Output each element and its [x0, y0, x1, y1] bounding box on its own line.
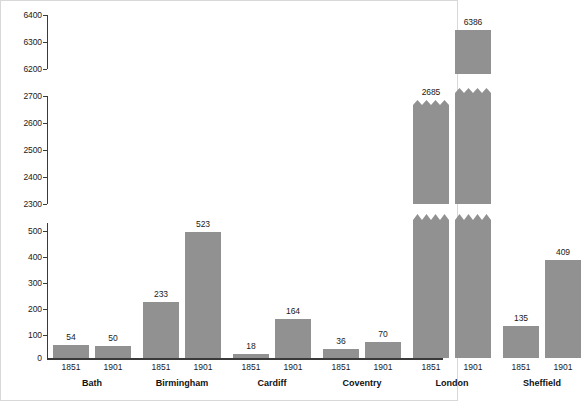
bar-label-bath-1901: 50 [95, 334, 131, 343]
y-tick-6200: 6200 [8, 65, 42, 74]
x-group-sheffield: Sheffield [497, 379, 585, 388]
y-tick-200: 200 [8, 305, 42, 314]
y-tick-2300: 2300 [8, 200, 42, 209]
bar-label-coventry-1901: 70 [365, 330, 401, 339]
y-tick-2600: 2600 [8, 119, 42, 128]
bar-label-london-1851: 2685 [413, 88, 449, 97]
y-tick-300: 300 [8, 279, 42, 288]
bar-coventry-1851 [323, 349, 359, 358]
y-tick-2500: 2500 [8, 146, 42, 155]
bar-london-1851-break-upper [413, 100, 449, 109]
bar-london-1901-break-middle [455, 88, 491, 97]
y-tick-6400: 6400 [8, 11, 42, 20]
bar-sheffield-1851 [503, 326, 539, 358]
x-year-sheffield-1901: 1901 [545, 363, 581, 372]
y-tick-2700: 2700 [8, 92, 42, 101]
bar-cardiff-1901 [275, 319, 311, 358]
x-year-birmingham-1851: 1851 [143, 363, 179, 372]
bar-london-1851-break-lower [413, 214, 449, 224]
x-year-london-1901: 1901 [455, 363, 491, 372]
bar-london-1901-break-lower [455, 214, 491, 224]
bar-london-1901-top [455, 30, 491, 70]
x-group-birmingham: Birmingham [133, 379, 231, 388]
bar-london-1901-middle [455, 96, 491, 204]
bar-coventry-1901 [365, 342, 401, 358]
y-tick-6300: 6300 [8, 38, 42, 47]
y-tick-2400: 2400 [8, 173, 42, 182]
bar-bath-1901 [95, 346, 131, 358]
bar-london-1901-break-upper [455, 65, 491, 74]
x-year-coventry-1851: 1851 [323, 363, 359, 372]
bar-label-coventry-1851: 36 [323, 337, 359, 346]
y-tick-500: 500 [8, 227, 42, 236]
bar-birmingham-1851 [143, 302, 179, 358]
x-group-london: London [407, 379, 497, 388]
x-year-bath-1901: 1901 [95, 363, 131, 372]
bar-label-cardiff-1901: 164 [275, 307, 311, 316]
x-group-cardiff: Cardiff [227, 379, 317, 388]
bar-bath-1851 [53, 345, 89, 358]
x-year-birmingham-1901: 1901 [185, 363, 221, 372]
y-tick-100: 100 [8, 331, 42, 340]
bar-london-1851-middle [413, 108, 449, 204]
bar-label-birmingham-1851: 233 [143, 290, 179, 299]
bar-label-birmingham-1901: 523 [185, 220, 221, 229]
bar-label-sheffield-1851: 135 [503, 314, 539, 323]
bar-label-cardiff-1851: 18 [233, 342, 269, 351]
x-year-coventry-1901: 1901 [365, 363, 401, 372]
bar-london-1901-bottom [455, 223, 491, 358]
bar-cardiff-1851 [233, 354, 269, 358]
x-year-london-1851: 1851 [413, 363, 449, 372]
bar-label-sheffield-1901: 409 [545, 248, 581, 257]
x-group-coventry: Coventry [317, 379, 407, 388]
bar-label-london-1901: 6386 [455, 18, 491, 27]
bar-london-1851-bottom [413, 223, 449, 358]
x-group-bath: Bath [47, 379, 137, 388]
x-year-sheffield-1851: 1851 [503, 363, 539, 372]
x-year-cardiff-1901: 1901 [275, 363, 311, 372]
bar-label-bath-1851: 54 [53, 333, 89, 342]
x-year-cardiff-1851: 1851 [233, 363, 269, 372]
x-year-bath-1851: 1851 [53, 363, 89, 372]
y-tick-0: 0 [8, 354, 42, 363]
bar-birmingham-1901 [185, 232, 221, 358]
bar-sheffield-1901 [545, 260, 581, 358]
y-tick-400: 400 [8, 253, 42, 262]
